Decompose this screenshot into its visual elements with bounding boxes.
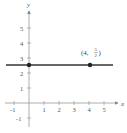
svg-text:): ) — [99, 49, 102, 57]
svg-text:-1: -1 — [16, 115, 21, 122]
point-4-five-halves — [88, 63, 92, 67]
y-tick-labels: -1 1 2 3 4 5 — [16, 25, 24, 122]
x-axis-label: x — [120, 100, 125, 108]
svg-text:4: 4 — [88, 106, 92, 113]
y-axis-label: y — [26, 1, 31, 9]
svg-text:5: 5 — [95, 47, 98, 52]
svg-text:3: 3 — [73, 106, 76, 113]
svg-text:2: 2 — [95, 53, 98, 58]
point-y-intercept — [27, 63, 31, 67]
svg-text:1: 1 — [20, 85, 23, 92]
x-tick-labels: -1 1 2 3 4 5 — [10, 106, 106, 113]
svg-text:2: 2 — [20, 70, 23, 77]
point-annotation: (4, 5 2 ) — [81, 47, 102, 58]
svg-text:3: 3 — [20, 55, 23, 62]
svg-text:5: 5 — [103, 106, 106, 113]
svg-text:(4,: (4, — [81, 49, 89, 57]
chart: x y -1 1 2 3 4 5 -1 1 2 3 4 5 — [0, 0, 127, 133]
svg-text:4: 4 — [20, 40, 24, 47]
svg-text:2: 2 — [58, 106, 61, 113]
svg-text:5: 5 — [20, 25, 23, 32]
svg-text:1: 1 — [43, 106, 46, 113]
svg-text:-1: -1 — [10, 106, 15, 113]
